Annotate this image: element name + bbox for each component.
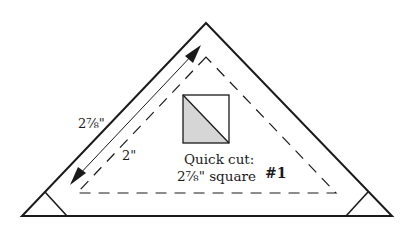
half-square-triangle-icon — [183, 95, 229, 143]
piece-number-label: #1 — [265, 165, 286, 181]
right-corner-trim-line — [346, 192, 368, 216]
outer-edge-label: 2⅞" — [78, 116, 105, 131]
finished-edge-label: 2" — [122, 148, 136, 163]
quick-cut-label: Quick cut: — [184, 151, 254, 167]
left-corner-trim-line — [45, 192, 67, 216]
quick-cut-size-label: 2⅞" square — [177, 168, 256, 184]
quilt-piece-diagram: 2⅞" 2" Quick cut: 2⅞" square #1 — [0, 0, 407, 229]
